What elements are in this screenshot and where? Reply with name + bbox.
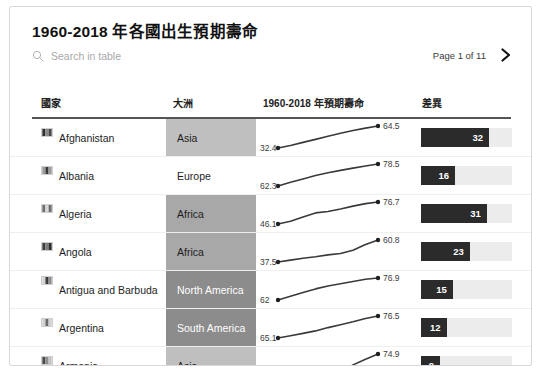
- cell-difference: 23: [421, 242, 512, 261]
- difference-value: 16: [438, 170, 449, 181]
- country-name: Algeria: [59, 208, 92, 220]
- sparkline-end-dot: [376, 124, 380, 128]
- table-row[interactable]: AngolaAfrica37.560.823: [10, 233, 531, 271]
- table-header: 國家 大洲 1960-2018 年預期壽命 差異: [10, 95, 531, 117]
- table-row[interactable]: Antigua and BarbudaNorth America6276.915: [10, 271, 531, 309]
- sparkline-start-value: 46.1: [260, 219, 277, 229]
- country-name: Argentina: [59, 322, 104, 334]
- cell-continent: Asia: [166, 347, 256, 366]
- sparkline-end-dot: [376, 238, 380, 242]
- table-row[interactable]: AfghanistanAsia32.464.532: [10, 119, 531, 157]
- continent-label: Europe: [177, 170, 211, 182]
- sparkline-start-value: 32.4: [260, 143, 277, 153]
- cell-sparkline: 65.176.5: [260, 309, 415, 346]
- page-title: 1960-2018 年各國出生預期壽命: [32, 19, 258, 41]
- cell-sparkline: 62.378.5: [260, 157, 415, 194]
- cell-difference: 16: [421, 166, 512, 185]
- sparkline-end-dot: [376, 352, 380, 356]
- country-name: Albania: [59, 170, 94, 182]
- cell-country: Albania: [32, 157, 162, 194]
- table-row[interactable]: ArmeniaAsia6674.99: [10, 347, 531, 366]
- cell-difference: 9: [421, 356, 512, 366]
- difference-value: 32: [472, 132, 483, 143]
- difference-bar: 16: [421, 166, 455, 185]
- life-expectancy-table-card: 1960-2018 年各國出生預期壽命 Page 1 of 11 國家 大洲 1…: [9, 6, 532, 366]
- difference-value: 9: [429, 360, 434, 366]
- sparkline-end-dot: [376, 200, 380, 204]
- cell-continent: Europe: [166, 157, 256, 194]
- cell-difference: 15: [421, 280, 512, 299]
- cell-country: Angola: [32, 233, 162, 270]
- cell-continent: Africa: [166, 195, 256, 232]
- flag-armenia-icon: [41, 356, 53, 365]
- continent-label: Africa: [177, 246, 204, 258]
- difference-value: 31: [470, 208, 481, 219]
- country-name: Armenia: [59, 360, 98, 367]
- chevron-right-icon[interactable]: [499, 47, 513, 63]
- cell-sparkline: 32.464.5: [260, 119, 415, 156]
- sparkline-start-dot: [276, 298, 280, 302]
- pagination-label: Page 1 of 11: [433, 50, 486, 61]
- cell-country: Antigua and Barbuda: [32, 271, 162, 308]
- search-icon: [32, 50, 44, 62]
- difference-bar: 12: [421, 318, 447, 337]
- sparkline-end-dot: [376, 162, 380, 166]
- search-box[interactable]: [32, 45, 292, 67]
- difference-bar: 15: [421, 280, 453, 299]
- cell-country: Afghanistan: [32, 119, 162, 156]
- flag-albania-icon: [41, 166, 53, 175]
- continent-label: South America: [177, 322, 245, 334]
- sparkline-end-value: 76.7: [383, 197, 400, 207]
- cell-continent: Asia: [166, 119, 256, 156]
- difference-bar: 9: [421, 356, 440, 366]
- sparkline-end-value: 76.5: [383, 311, 400, 321]
- sparkline-end-dot: [376, 276, 380, 280]
- cell-sparkline: 46.176.7: [260, 195, 415, 232]
- cell-difference: 12: [421, 318, 512, 337]
- continent-label: North America: [177, 284, 244, 296]
- table-row[interactable]: AlgeriaAfrica46.176.731: [10, 195, 531, 233]
- cell-sparkline: 6674.9: [260, 347, 415, 366]
- column-header-life[interactable]: 1960-2018 年預期壽命: [263, 95, 364, 110]
- search-input[interactable]: [51, 50, 261, 62]
- flag-argentina-icon: [41, 318, 53, 327]
- sparkline-start-value: 62.3: [260, 181, 277, 191]
- flag-angola-icon: [41, 242, 53, 251]
- continent-label: Asia: [177, 132, 197, 144]
- difference-bar: 32: [421, 128, 489, 147]
- country-name: Antigua and Barbuda: [59, 284, 158, 296]
- sparkline-end-dot: [376, 314, 380, 318]
- cell-sparkline: 6276.9: [260, 271, 415, 308]
- pagination: Page 1 of 11: [433, 47, 513, 63]
- sparkline-end-value: 74.9: [383, 349, 400, 359]
- difference-bar: 23: [421, 242, 470, 261]
- flag-antigua-and-barbuda-icon: [41, 276, 53, 285]
- sparkline-start-value: 62: [260, 295, 269, 305]
- sparkline-start-value: 37.5: [260, 257, 277, 267]
- column-header-diff[interactable]: 差異: [422, 95, 442, 110]
- cell-difference: 32: [421, 128, 512, 147]
- sparkline-end-value: 60.8: [383, 235, 400, 245]
- sparkline-end-value: 64.5: [383, 121, 400, 131]
- cell-difference: 31: [421, 204, 512, 223]
- cell-country: Algeria: [32, 195, 162, 232]
- country-name: Afghanistan: [59, 132, 114, 144]
- column-header-country[interactable]: 國家: [41, 95, 61, 110]
- difference-value: 12: [430, 322, 441, 333]
- table-body: AfghanistanAsia32.464.532AlbaniaEurope62…: [10, 119, 531, 366]
- sparkline-end-value: 78.5: [383, 159, 400, 169]
- country-name: Angola: [59, 246, 92, 258]
- difference-value: 15: [436, 284, 447, 295]
- cell-country: Argentina: [32, 309, 162, 346]
- flag-afghanistan-icon: [41, 128, 53, 137]
- sparkline-end-value: 76.9: [383, 273, 400, 283]
- difference-value: 23: [453, 246, 464, 257]
- cell-continent: South America: [166, 309, 256, 346]
- flag-algeria-icon: [41, 204, 53, 213]
- cell-sparkline: 37.560.8: [260, 233, 415, 270]
- cell-continent: Africa: [166, 233, 256, 270]
- table-row[interactable]: AlbaniaEurope62.378.516: [10, 157, 531, 195]
- column-header-continent[interactable]: 大洲: [173, 95, 193, 110]
- continent-label: Asia: [177, 360, 197, 367]
- table-row[interactable]: ArgentinaSouth America65.176.512: [10, 309, 531, 347]
